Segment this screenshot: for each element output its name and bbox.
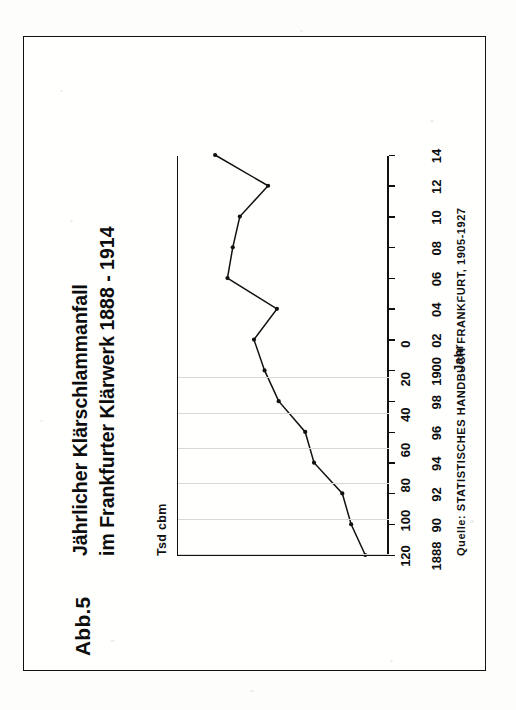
x-tick-mark: [389, 155, 395, 156]
scan-speckle: [470, 520, 474, 523]
x-tick-mark: [389, 278, 395, 279]
data-point-marker: [231, 245, 235, 249]
y-tick-label: 120: [398, 539, 413, 573]
data-point-marker: [349, 522, 353, 526]
x-tick-label: 92: [429, 487, 444, 501]
data-point-marker: [252, 338, 256, 342]
x-tick-label: 94: [429, 456, 444, 470]
scanned-page: Abb.5 Jährlicher Klärschlammanfall im Fr…: [0, 0, 516, 710]
gridline: [178, 483, 389, 484]
data-point-marker: [277, 399, 281, 403]
gridline: [178, 448, 389, 449]
data-point-marker: [225, 276, 229, 280]
x-tick-mark: [389, 462, 395, 463]
x-tick-label: 10: [429, 210, 444, 224]
x-tick-mark: [389, 185, 395, 186]
rotated-figure: Abb.5 Jährlicher Klärschlammanfall im Fr…: [63, 100, 493, 660]
x-tick-mark: [389, 524, 395, 525]
plot-area: [177, 156, 389, 556]
x-tick-label: 90: [429, 518, 444, 532]
data-point-marker: [340, 491, 344, 495]
x-tick-mark: [389, 555, 395, 556]
gridline: [178, 519, 389, 520]
x-tick-mark: [389, 216, 395, 217]
x-tick-mark: [389, 401, 395, 402]
y-tick-label: 80: [398, 468, 413, 502]
x-tick-label: 96: [429, 426, 444, 440]
x-tick-mark: [389, 432, 395, 433]
figure-title-line-1: Jährlicher Klärschlammanfall: [69, 284, 92, 556]
gridline: [178, 377, 389, 378]
x-tick-label: 06: [429, 272, 444, 286]
x-tick-mark: [389, 493, 395, 494]
x-tick-mark: [389, 308, 395, 309]
x-tick-label: 08: [429, 241, 444, 255]
y-tick-label: 0: [398, 327, 413, 361]
y-tick-label: 40: [398, 398, 413, 432]
scan-speckle: [70, 220, 73, 222]
x-tick-label: 02: [429, 333, 444, 347]
scan-speckle: [455, 300, 458, 302]
data-point-marker: [262, 368, 266, 372]
scan-speckle: [430, 120, 434, 122]
data-point-marker: [238, 214, 242, 218]
data-point-marker: [213, 153, 217, 157]
x-tick-label: 1888: [429, 542, 444, 571]
y-tick-label: 100: [398, 504, 413, 538]
x-tick-mark: [389, 370, 395, 371]
scan-speckle: [300, 30, 303, 32]
scan-speckle: [250, 690, 254, 692]
y-axis-unit-label: Tsd cbm: [155, 503, 169, 556]
scan-speckle: [40, 420, 43, 422]
scan-speckle: [390, 660, 393, 662]
x-tick-mark: [389, 339, 395, 340]
x-tick-mark: [389, 247, 395, 248]
scan-speckle: [60, 90, 63, 92]
x-tick-label: 14: [429, 149, 444, 163]
source-note: Quelle: STATISTISCHES HANDBUCH FRANKFURT…: [455, 207, 467, 556]
figure-number: Abb.5: [71, 597, 95, 656]
data-point-marker: [266, 184, 270, 188]
y-tick-label: 20: [398, 362, 413, 396]
scan-speckle: [110, 640, 115, 642]
gridline: [178, 554, 389, 555]
y-tick-label: 60: [398, 433, 413, 467]
figure-title-line-2: im Frankfurter Klärwerk 1888 - 1914: [96, 226, 119, 556]
data-point-marker: [303, 430, 307, 434]
x-tick-label: 1900: [429, 357, 444, 386]
x-tick-label: 98: [429, 395, 444, 409]
data-line-series: [178, 155, 390, 555]
x-tick-label: 12: [429, 180, 444, 194]
x-tick-label: 04: [429, 303, 444, 317]
gridline: [178, 413, 389, 414]
figure-frame: Abb.5 Jährlicher Klärschlammanfall im Fr…: [23, 36, 486, 671]
data-point-marker: [275, 307, 279, 311]
data-point-marker: [312, 461, 316, 465]
